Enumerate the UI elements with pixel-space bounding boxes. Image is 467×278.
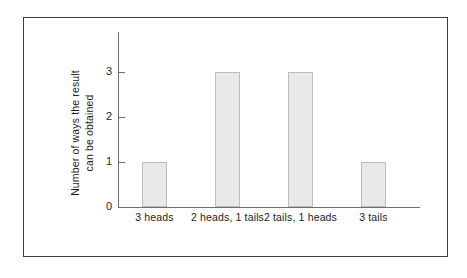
figure-frame: [23, 17, 448, 257]
